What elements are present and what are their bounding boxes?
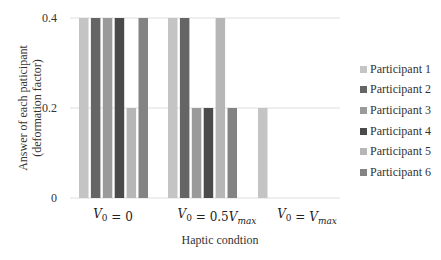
bar [168, 18, 178, 198]
bar [103, 18, 113, 198]
y-axis-ticks: 00.20.4 [42, 11, 57, 205]
legend-label: Participant 5 [370, 144, 431, 159]
legend-swatch [360, 86, 367, 93]
legend-label: Participant 6 [370, 165, 431, 180]
legend: Participant 1 Participant 2 Participant … [360, 59, 431, 183]
y-tick-label: 0.4 [42, 11, 57, 25]
legend-label: Participant 4 [370, 124, 431, 139]
y-tick-label: 0 [51, 191, 57, 205]
legend-swatch [360, 169, 367, 176]
x-tick-label: V0 = 0.5Vmax [178, 207, 257, 226]
y-axis-label-line1: Answer of each paticipant [16, 45, 30, 171]
bar [91, 18, 101, 198]
legend-swatch [360, 128, 367, 135]
legend-label: Participant 1 [370, 62, 431, 77]
bar [139, 18, 149, 198]
y-axis-label-line2: (deformation factor) [30, 45, 44, 171]
bar [115, 18, 125, 198]
legend-item: Participant 1 [360, 59, 431, 80]
x-tick-label: V0 = 0 [93, 207, 133, 224]
legend-item: Participant 2 [360, 80, 431, 101]
bar [228, 108, 238, 198]
legend-label: Participant 2 [370, 82, 431, 97]
x-tick-label: V0 = Vmax [277, 207, 337, 226]
legend-item: Participant 6 [360, 162, 431, 183]
legend-swatch [360, 148, 367, 155]
bar [216, 18, 226, 198]
legend-item: Participant 5 [360, 141, 431, 162]
x-axis-label: Haptic condtion [160, 233, 280, 248]
bar [258, 108, 268, 198]
y-tick-label: 0.2 [42, 101, 57, 115]
bar [127, 108, 137, 198]
x-axis-category-labels: V0 = 0V0 = 0.5VmaxV0 = Vmax [93, 207, 337, 226]
bar [204, 108, 214, 198]
legend-swatch [360, 66, 367, 73]
bar [180, 18, 190, 198]
legend-item: Participant 4 [360, 121, 431, 142]
legend-item: Participant 3 [360, 100, 431, 121]
bar [192, 108, 202, 198]
bar [79, 18, 89, 198]
legend-label: Participant 3 [370, 103, 431, 118]
legend-swatch [360, 107, 367, 114]
